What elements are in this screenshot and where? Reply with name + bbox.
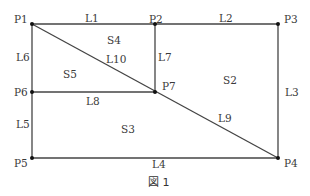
point-label-P6: P6	[14, 86, 28, 98]
point-label-P4: P4	[284, 157, 298, 169]
point-P7	[153, 90, 157, 94]
line-label-L6: L6	[16, 51, 30, 63]
line-label-L8: L8	[86, 95, 100, 107]
region-label-S3: S3	[121, 123, 135, 135]
region-label-S2: S2	[223, 74, 237, 86]
point-label-P3: P3	[284, 13, 298, 25]
line-label-L5: L5	[16, 118, 30, 130]
point-P4	[276, 156, 280, 160]
point-P1	[30, 22, 34, 26]
point-label-P5: P5	[14, 157, 28, 169]
point-P3	[276, 22, 280, 26]
point-P5	[30, 156, 34, 160]
point-label-P2: P2	[149, 13, 163, 25]
point-label-P7: P7	[162, 80, 176, 92]
figure-caption: 図 1	[148, 176, 170, 189]
line-label-L7: L7	[158, 51, 172, 63]
line-label-L4: L4	[152, 158, 166, 170]
diagram: P1 P2 P3 P4 P5 P6 P7 L1 L2 L3 L4 L5 L6 L…	[0, 0, 310, 196]
line-label-L10: L10	[106, 53, 126, 65]
region-label-S4: S4	[107, 34, 121, 46]
line-label-L2: L2	[219, 12, 233, 24]
line-label-L9: L9	[218, 112, 232, 124]
line-label-L1: L1	[85, 12, 99, 24]
region-label-S5: S5	[63, 68, 77, 80]
point-P6	[30, 90, 34, 94]
line-label-L3: L3	[285, 86, 299, 98]
point-label-P1: P1	[14, 13, 28, 25]
